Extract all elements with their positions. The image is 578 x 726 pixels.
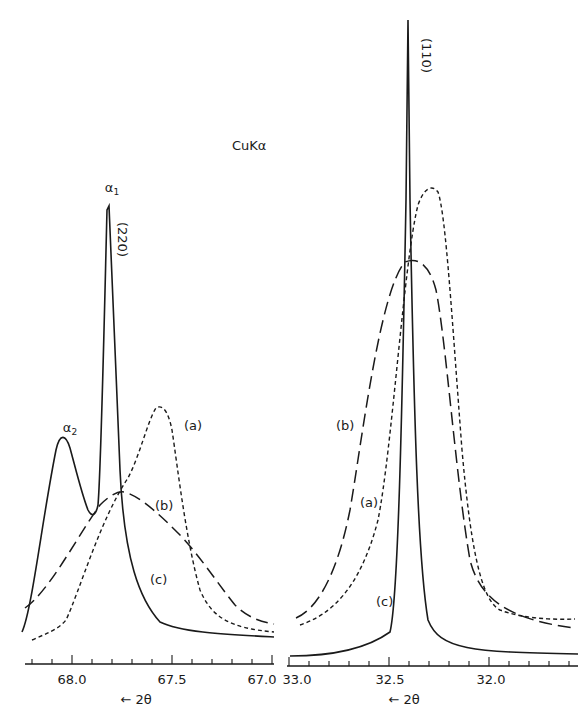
left-curve-c xyxy=(22,206,274,637)
left-tick-label: 67.5 xyxy=(158,672,187,687)
left-curve-b xyxy=(25,492,274,624)
peak-220-label: (220) xyxy=(115,222,130,257)
right-label-b: (b) xyxy=(336,418,354,433)
left-xlabel: ← 2θ xyxy=(120,692,151,707)
right-curve-b xyxy=(296,260,575,628)
left-axis-ticks xyxy=(32,655,272,664)
right-curve-c xyxy=(290,20,578,656)
right-panel: 33.0 32.5 32.0 ← 2θ (110) (b) (a) (c) xyxy=(283,20,578,707)
right-label-a: (a) xyxy=(360,495,378,510)
alpha2-label: α2 xyxy=(63,420,77,437)
left-tick-label: 68.0 xyxy=(58,672,87,687)
peak-110-label: (110) xyxy=(419,38,434,73)
right-tick-label: 32.0 xyxy=(477,672,506,687)
left-tick-label: 67.0 xyxy=(248,672,277,687)
right-xlabel: ← 2θ xyxy=(388,692,419,707)
right-label-c: (c) xyxy=(376,594,393,609)
left-label-a: (a) xyxy=(184,418,202,433)
alpha1-label: α1 xyxy=(105,180,119,197)
right-tick-label: 33.0 xyxy=(283,672,312,687)
xrd-figure: 68.0 67.5 67.0 ← 2θ α1 α2 (220) (a) (b) … xyxy=(0,0,578,726)
right-axis-ticks xyxy=(289,657,569,666)
left-panel: 68.0 67.5 67.0 ← 2θ α1 α2 (220) (a) (b) … xyxy=(22,180,276,707)
right-curve-a xyxy=(300,188,575,625)
left-label-b: (b) xyxy=(155,498,173,513)
right-tick-label: 32.5 xyxy=(376,672,405,687)
left-label-c: (c) xyxy=(150,572,167,587)
radiation-label: CuKα xyxy=(232,138,266,153)
